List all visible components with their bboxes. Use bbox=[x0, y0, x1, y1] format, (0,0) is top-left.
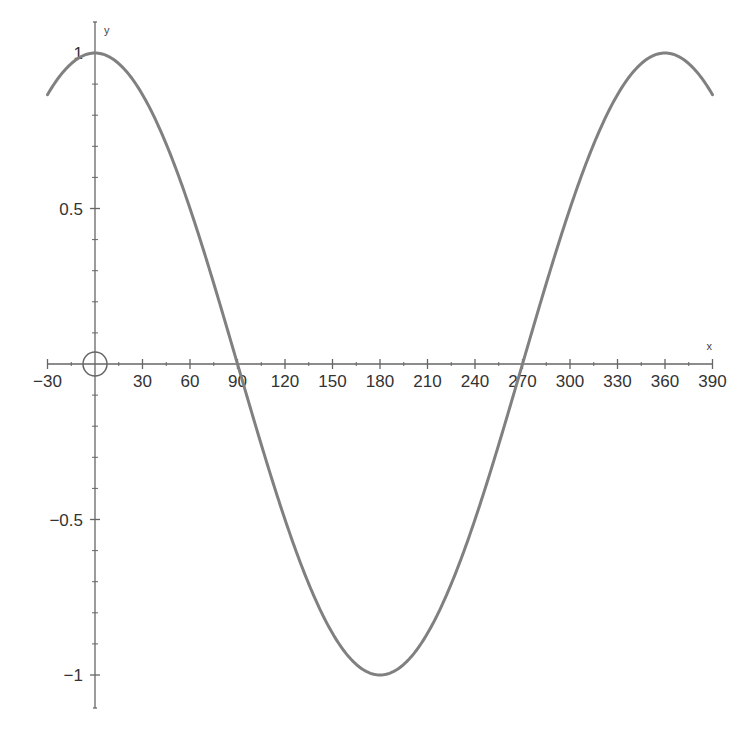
x-tick-label: 150 bbox=[318, 372, 346, 391]
x-tick-label: 180 bbox=[366, 372, 394, 391]
x-tick-label: 60 bbox=[181, 372, 200, 391]
y-tick-label: 0.5 bbox=[59, 200, 83, 219]
x-tick-label: 30 bbox=[133, 372, 152, 391]
x-tick-label: 240 bbox=[461, 372, 489, 391]
x-tick-label: 390 bbox=[698, 372, 726, 391]
x-tick-label: 330 bbox=[603, 372, 631, 391]
y-axis-label: y bbox=[104, 24, 110, 36]
y-tick-label: −0.5 bbox=[49, 511, 83, 530]
x-tick-label: 210 bbox=[413, 372, 441, 391]
x-axis-label: x bbox=[707, 340, 713, 352]
y-tick-label: −1 bbox=[64, 666, 83, 685]
cosine-chart: −303060901201501802102402703003303603901… bbox=[0, 0, 753, 732]
x-tick-label: 360 bbox=[651, 372, 679, 391]
x-tick-label: 270 bbox=[508, 372, 536, 391]
x-tick-label: −30 bbox=[33, 372, 62, 391]
x-tick-label: 300 bbox=[556, 372, 584, 391]
x-tick-label: 120 bbox=[271, 372, 299, 391]
